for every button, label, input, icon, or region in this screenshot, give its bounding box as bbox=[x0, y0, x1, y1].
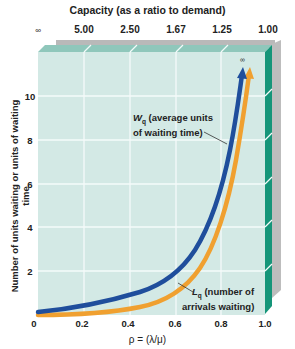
wq-text-line1: (average units bbox=[146, 112, 213, 123]
x-tick: 0.8 bbox=[214, 318, 227, 329]
x-axis-label: ρ = (λ/μ) bbox=[0, 334, 295, 345]
x-tick: 1.0 bbox=[258, 318, 271, 329]
lq-text-line1: (number of bbox=[202, 286, 254, 297]
lq-annotation: Lq (number of arrivals waiting) bbox=[182, 286, 254, 312]
wq-symbol: W bbox=[133, 112, 142, 123]
infinity-label: ∞ bbox=[240, 56, 245, 63]
y-tick: 2 bbox=[27, 266, 32, 277]
right-bevel bbox=[265, 45, 272, 314]
x-tick: 0.4 bbox=[121, 318, 134, 329]
y-tick: 6 bbox=[27, 179, 32, 190]
y-tick: 4 bbox=[27, 222, 32, 233]
top-bevel bbox=[38, 45, 272, 52]
wq-annotation: Wq (average units of waiting time) bbox=[133, 112, 213, 138]
lq-text-line2: arrivals waiting) bbox=[182, 301, 254, 312]
x-tick: 0 bbox=[31, 318, 36, 329]
y-tick: 8 bbox=[27, 135, 32, 146]
right-shadow-band bbox=[272, 40, 281, 298]
x-tick: 0.6 bbox=[168, 318, 181, 329]
wq-text-line2: of waiting time) bbox=[133, 127, 213, 138]
y-tick: 10 bbox=[25, 91, 36, 102]
x-tick: 0.2 bbox=[75, 318, 88, 329]
